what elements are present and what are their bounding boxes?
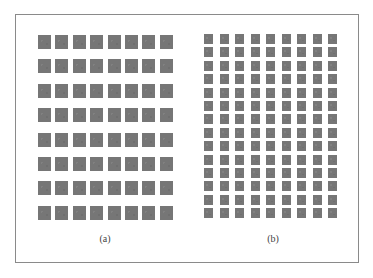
grid-square (160, 59, 173, 73)
grid-square (125, 157, 138, 171)
grid-square (160, 108, 173, 122)
grid-square (297, 74, 306, 84)
grid-square (220, 61, 229, 71)
grid-square (73, 206, 86, 220)
grid-square (313, 128, 322, 138)
grid-square (266, 74, 275, 84)
grid-square (282, 114, 291, 124)
grid-square (328, 47, 337, 57)
grid-square (220, 114, 229, 124)
grid-square (328, 141, 337, 151)
grid-square (313, 114, 322, 124)
grid-square (108, 157, 121, 171)
grid-square (125, 108, 138, 122)
grid-square (108, 108, 121, 122)
grid-square (73, 133, 86, 147)
grid-square (90, 35, 103, 49)
grid-square (251, 168, 260, 178)
grid-square (108, 181, 121, 195)
grid-square (313, 208, 322, 218)
grid-square (328, 61, 337, 71)
grid-square (235, 168, 244, 178)
grid-square (125, 133, 138, 147)
grid-square (73, 108, 86, 122)
grid-square (282, 128, 291, 138)
grid-square (282, 61, 291, 71)
grid-square (235, 195, 244, 205)
grid-square (220, 34, 229, 44)
grid-square (297, 101, 306, 111)
grid-square (108, 59, 121, 73)
grid-square (328, 181, 337, 191)
grid-square (235, 114, 244, 124)
grid-square (251, 88, 260, 98)
grid-square (204, 155, 213, 165)
grid-square (328, 114, 337, 124)
grid-square (204, 208, 213, 218)
grid-square (160, 181, 173, 195)
grid-square (251, 101, 260, 111)
grid-square (251, 155, 260, 165)
grid-square (313, 155, 322, 165)
grid-square (282, 208, 291, 218)
grid-square (125, 206, 138, 220)
grid-square (328, 195, 337, 205)
grid-square (235, 88, 244, 98)
grid-square (282, 47, 291, 57)
grid-square (297, 88, 306, 98)
grid-square (108, 35, 121, 49)
grid-square (313, 47, 322, 57)
grid-square (235, 47, 244, 57)
grid-square (108, 206, 121, 220)
grid-square (204, 47, 213, 57)
grid-square (142, 206, 155, 220)
grid-square (251, 141, 260, 151)
grid-square (297, 155, 306, 165)
grid-square (328, 168, 337, 178)
grid-square (220, 88, 229, 98)
grid-square (235, 61, 244, 71)
grid-square (160, 157, 173, 171)
grid-square (55, 108, 68, 122)
grid-square (108, 84, 121, 98)
grid-square (55, 59, 68, 73)
grid-square (38, 108, 51, 122)
grid-square (251, 195, 260, 205)
grid-square (328, 101, 337, 111)
grid-square (328, 88, 337, 98)
grid-square (297, 114, 306, 124)
grid-square (282, 88, 291, 98)
grid-square (38, 133, 51, 147)
grid-square (38, 157, 51, 171)
grid-square (90, 157, 103, 171)
grid-square (313, 74, 322, 84)
grid-square (328, 208, 337, 218)
grid-square (142, 35, 155, 49)
grid-square (282, 101, 291, 111)
grid-square (297, 168, 306, 178)
grid-square (204, 74, 213, 84)
grid-square (235, 208, 244, 218)
grid-square (160, 206, 173, 220)
grid-square (55, 133, 68, 147)
grid-square (204, 128, 213, 138)
grid-square (125, 35, 138, 49)
grid-square (108, 133, 121, 147)
grid-square (220, 128, 229, 138)
grid-square (251, 128, 260, 138)
grid-square (220, 74, 229, 84)
grid-square (160, 35, 173, 49)
grid-square (297, 208, 306, 218)
grid-square (251, 34, 260, 44)
grid-square (125, 59, 138, 73)
grid-square (251, 114, 260, 124)
grid-square (73, 35, 86, 49)
grid-square (297, 47, 306, 57)
grid-square (297, 61, 306, 71)
grid-square (204, 34, 213, 44)
grid-square (282, 155, 291, 165)
grid-square (328, 34, 337, 44)
grid-square (38, 181, 51, 195)
grid-square (266, 195, 275, 205)
grid-square (220, 101, 229, 111)
